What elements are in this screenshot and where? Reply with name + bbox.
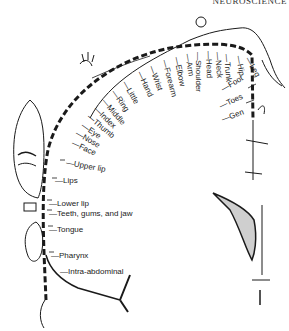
face-drawing [14, 100, 44, 198]
body-part-label: —Lower lip [49, 200, 89, 208]
hand-drawing [80, 52, 94, 66]
tongue-drawing [25, 222, 43, 261]
figure-head [196, 17, 206, 27]
body-part-label: —Pharynx [51, 252, 88, 260]
toes-drawing [258, 106, 265, 114]
body-part-label: —Intra-abdominal [60, 268, 124, 276]
homunculus-illustration [0, 0, 289, 331]
body-part-label: —Lips [55, 177, 78, 185]
body-part-label: —Head [204, 51, 213, 78]
body-part-label: —Tongue [49, 226, 83, 234]
pharynx-drawing [46, 255, 120, 300]
teeth-drawing [24, 203, 36, 211]
foot-drawing [262, 60, 282, 86]
body-part-label: —Neck [213, 52, 223, 79]
body-part-label: —Teeth, gums, and jaw [49, 210, 133, 218]
genitalia-shape [213, 193, 256, 260]
